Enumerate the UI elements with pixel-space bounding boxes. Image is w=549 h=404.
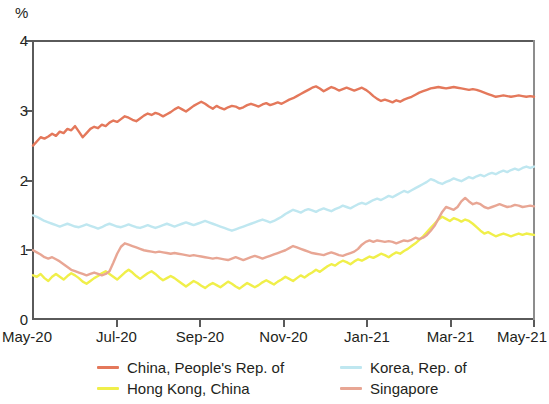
legend-color-swatch xyxy=(97,387,119,390)
plot-top-border xyxy=(32,40,535,42)
y-axis-tick-label: 0 xyxy=(6,312,28,327)
legend-label: China, People's Rep. of xyxy=(127,360,284,375)
x-axis-tick xyxy=(116,320,118,327)
chart-legend: China, People's Rep. ofHong Kong, ChinaK… xyxy=(0,357,549,403)
x-axis-tick xyxy=(283,320,285,327)
y-axis-tick-label: 2 xyxy=(6,173,28,188)
plot-right-border xyxy=(533,40,535,322)
x-axis-tick-label: Mar-21 xyxy=(427,329,475,344)
legend-label: Singapore xyxy=(370,381,438,396)
legend-color-swatch xyxy=(97,366,119,369)
x-axis-tick-label: May-21 xyxy=(497,329,547,344)
plot-area-frame xyxy=(32,40,535,320)
x-axis-tick xyxy=(199,320,201,327)
x-axis-tick xyxy=(533,320,535,327)
legend-color-swatch xyxy=(340,387,362,390)
x-axis-tick xyxy=(366,320,368,327)
legend-item[interactable]: China, People's Rep. of xyxy=(97,360,284,375)
x-axis-tick-label: Jan-21 xyxy=(344,329,390,344)
y-axis-tick-label: 4 xyxy=(6,33,28,48)
y-axis-tick-label: 1 xyxy=(6,242,28,257)
y-axis-unit-label: % xyxy=(15,4,29,21)
x-axis-tick-label: Sep-20 xyxy=(176,329,224,344)
x-axis-tick-label: May-20 xyxy=(2,329,52,344)
x-axis-tick xyxy=(450,320,452,327)
x-axis-tick-label: Jul-20 xyxy=(96,329,137,344)
legend-item[interactable]: Hong Kong, China xyxy=(97,381,250,396)
x-axis-tick-label: Nov-20 xyxy=(259,329,307,344)
legend-label: Hong Kong, China xyxy=(127,381,250,396)
legend-color-swatch xyxy=(340,366,362,369)
chart-figure: % 01234 May-20Jul-20Sep-20Nov-20Jan-21Ma… xyxy=(0,0,549,404)
y-axis-tick-label: 3 xyxy=(6,103,28,118)
legend-item[interactable]: Korea, Rep. of xyxy=(340,360,467,375)
legend-item[interactable]: Singapore xyxy=(340,381,438,396)
legend-label: Korea, Rep. of xyxy=(370,360,467,375)
